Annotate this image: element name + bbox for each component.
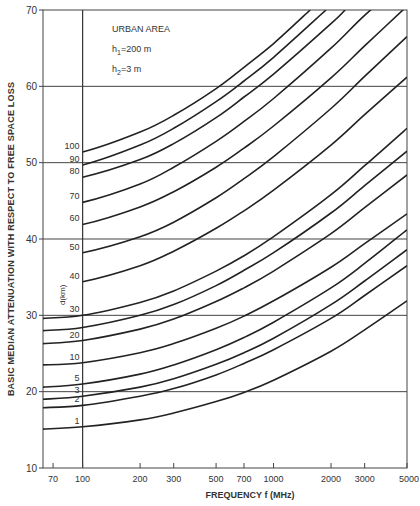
curve-d-20km: [43, 175, 407, 344]
x-tick-label: 70: [48, 474, 58, 484]
curve-label-30: 30: [70, 304, 80, 314]
x-tick-label: 200: [133, 474, 148, 484]
y-axis-title-wrap: BASIC MEDIAN ATTENUATION WITH RESPECT TO…: [0, 10, 22, 468]
curve-label-10: 10: [70, 352, 80, 362]
y-tick-label: 20: [26, 386, 38, 397]
y-tick-label: 50: [26, 157, 38, 168]
x-tick-label: 2000: [321, 474, 341, 484]
curve-group: [43, 0, 407, 429]
curve-d-40km: [43, 77, 407, 285]
x-tick-label: 5000: [399, 474, 419, 484]
y-tick-label: 60: [26, 81, 38, 92]
curve-label-90: 90: [70, 154, 80, 164]
annotation-area: URBAN AREA: [112, 24, 170, 34]
x-tick-label: 1000: [264, 474, 284, 484]
x-axis-ticks: 701002003005007001000200030005000: [48, 463, 419, 484]
x-tick-label: 3000: [355, 474, 375, 484]
distance-labels: 1009080706050403020105321: [65, 141, 80, 426]
annotation-h2-value: 3 m: [126, 64, 141, 74]
y-tick-label: 70: [26, 5, 38, 16]
curve-d-1km: [43, 301, 407, 429]
curve-label-1: 1: [75, 416, 80, 426]
curve-label-5: 5: [75, 373, 80, 383]
x-tick-label: 100: [75, 474, 90, 484]
x-tick-label: 300: [166, 474, 181, 484]
x-tick-label: 500: [209, 474, 224, 484]
attenuation-chart: 10203040506070 7010020030050070010002000…: [0, 0, 420, 506]
annotation-h1: h1=200 m: [112, 44, 151, 56]
curve-label-20: 20: [70, 330, 80, 340]
curve-label-70: 70: [70, 191, 80, 201]
y-tick-label: 40: [26, 234, 38, 245]
y-axis-ticks: 10203040506070: [26, 5, 43, 474]
legend-title: d(km): [58, 285, 67, 305]
curve-label-60: 60: [70, 213, 80, 223]
y-axis-title: BASIC MEDIAN ATTENUATION WITH RESPECT TO…: [6, 82, 16, 396]
curve-label-80: 80: [70, 166, 80, 176]
x-axis-title: FREQUENCY f (MHz): [0, 490, 420, 500]
y-tick-label: 30: [26, 310, 38, 321]
y-tick-label: 10: [26, 463, 38, 474]
curve-label-50: 50: [70, 242, 80, 252]
curve-d-2km: [43, 266, 407, 408]
curve-label-40: 40: [70, 271, 80, 281]
curve-label-2: 2: [75, 394, 80, 404]
annotation-h2: h2=3 m: [112, 64, 141, 76]
x-tick-label: 700: [236, 474, 251, 484]
annotation-h1-value: 200 m: [126, 44, 151, 54]
curve-label-100: 100: [65, 141, 80, 151]
